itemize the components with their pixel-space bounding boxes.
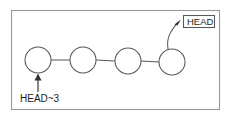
commit-link-3-4 <box>141 61 159 62</box>
head-ancestor-arrowhead <box>35 74 42 81</box>
commit-node-2[interactable] <box>70 47 96 73</box>
commit-graph-svg: HEAD HEAD~3 <box>0 0 231 118</box>
diagram-canvas: HEAD HEAD~3 <box>0 0 231 118</box>
head-pointer-arrowhead <box>175 20 182 26</box>
commit-node-4[interactable] <box>159 49 185 75</box>
commit-link-2-3 <box>96 60 115 61</box>
head-label-text: HEAD <box>187 16 214 27</box>
commit-node-1[interactable] <box>25 47 51 73</box>
head-ancestor-label-text: HEAD~3 <box>20 93 60 104</box>
head-pointer-curve <box>168 22 178 49</box>
commit-node-3[interactable] <box>115 48 141 74</box>
